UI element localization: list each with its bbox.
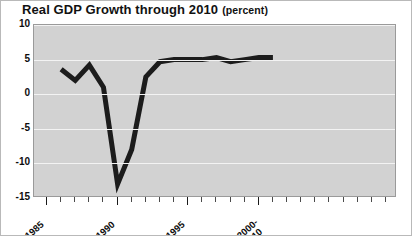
gridline xyxy=(34,163,395,164)
x-axis-minor-tick xyxy=(102,197,103,202)
x-axis-tick-label: 1990 xyxy=(94,219,116,236)
x-axis-tick-label: 1985 xyxy=(23,219,45,236)
x-axis-tick-label: 1995 xyxy=(164,219,186,236)
x-axis-minor-tick xyxy=(230,197,231,202)
x-axis-minor-tick xyxy=(343,197,344,202)
x-axis-minor-tick xyxy=(145,197,146,202)
gridline xyxy=(34,129,395,130)
x-axis-tick-label: 2000-2010 xyxy=(235,217,266,236)
x-axis-minor-tick xyxy=(385,197,386,202)
y-axis-tick-label: 0 xyxy=(4,87,30,98)
x-axis-tick-label-line: 1985 xyxy=(23,219,45,236)
x-axis-tick-label-line: 1990 xyxy=(94,219,116,236)
x-axis-minor-tick xyxy=(173,197,174,202)
series-line-svg xyxy=(34,25,396,197)
x-axis-major-tick xyxy=(258,197,259,205)
x-axis-minor-tick xyxy=(201,197,202,202)
x-axis-major-tick xyxy=(117,197,118,205)
x-axis-minor-tick xyxy=(272,197,273,202)
y-axis-tick-label: -5 xyxy=(4,122,30,133)
plot-area xyxy=(33,24,396,197)
chart-figure: Real GDP Growth through 2010(percent) 10… xyxy=(0,0,412,236)
data-series-line xyxy=(61,58,273,185)
x-axis-minor-tick xyxy=(314,197,315,202)
y-axis-tick-label: 10 xyxy=(4,18,30,29)
x-axis-major-tick xyxy=(46,197,47,205)
y-axis-tick-label: -10 xyxy=(4,156,30,167)
x-axis-minor-tick xyxy=(286,197,287,202)
x-axis-minor-tick xyxy=(60,197,61,202)
x-axis-minor-tick xyxy=(371,197,372,202)
x-axis-tick-label-line: 1995 xyxy=(164,219,186,236)
y-axis-tick-label: 5 xyxy=(4,53,30,64)
x-axis-minor-tick xyxy=(131,197,132,202)
gridline xyxy=(34,25,395,26)
x-axis: 1985199019952000-2010 xyxy=(0,197,412,236)
chart-subtitle-text: (percent) xyxy=(222,4,268,16)
x-axis-minor-tick xyxy=(215,197,216,202)
gridline xyxy=(34,94,395,95)
chart-title-text: Real GDP Growth through 2010 xyxy=(22,2,218,17)
x-axis-minor-tick xyxy=(88,197,89,202)
gridline xyxy=(34,60,395,61)
page-title: Real GDP Growth through 2010(percent) xyxy=(22,2,268,17)
x-axis-minor-tick xyxy=(357,197,358,202)
x-axis-minor-tick xyxy=(328,197,329,202)
x-axis-minor-tick xyxy=(159,197,160,202)
x-axis-minor-tick xyxy=(300,197,301,202)
x-axis-minor-tick xyxy=(74,197,75,202)
x-axis-major-tick xyxy=(187,197,188,205)
x-axis-minor-tick xyxy=(244,197,245,202)
